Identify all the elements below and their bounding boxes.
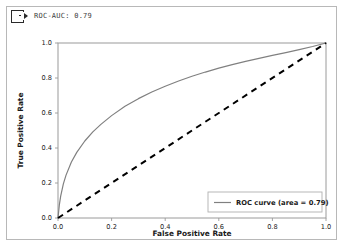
y-axis-ticks: 0.00.20.40.60.81.0 (42, 39, 59, 222)
export-icon[interactable] (11, 10, 24, 23)
x-tick-label: 0.2 (106, 223, 117, 231)
y-tick-label: 0.4 (42, 144, 53, 152)
legend-label-roc: ROC curve (area = 0.79) (236, 199, 329, 207)
y-axis-label: True Positive Rate (16, 93, 25, 169)
roc-figure: 0.00.20.40.60.81.0 0.00.20.40.60.81.0 RO… (7, 25, 338, 240)
x-tick-label: 1.0 (321, 223, 332, 231)
y-tick-label: 0.8 (42, 74, 53, 82)
y-tick-label: 1.0 (42, 39, 53, 47)
roc-chart: 0.00.20.40.60.81.0 0.00.20.40.60.81.0 RO… (7, 25, 338, 240)
x-tick-label: 0.0 (53, 223, 64, 231)
x-axis-label: False Positive Rate (152, 229, 231, 238)
window-header: ROC-AUC: 0.79 (7, 7, 336, 25)
plot-window: ROC-AUC: 0.79 0.00.20.40.60.81.0 0.00.20… (6, 6, 337, 240)
chart-legend: ROC curve (area = 0.79) (208, 192, 329, 212)
header-title: ROC-AUC: 0.79 (34, 12, 92, 20)
y-tick-label: 0.2 (42, 179, 53, 187)
y-tick-label: 0.0 (42, 214, 53, 222)
x-tick-label: 0.8 (267, 223, 278, 231)
y-tick-label: 0.6 (42, 109, 53, 117)
